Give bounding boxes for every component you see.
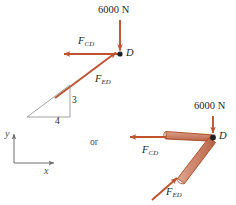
left-joint-dot-d — [117, 51, 122, 56]
right-force-label-fcd: FCD — [142, 145, 158, 156]
slope-run-label: 4 — [55, 117, 60, 127]
left-force-label-fed: FED — [95, 74, 111, 85]
axis-label-y: y — [5, 129, 9, 139]
right-force-label-fed: FED — [166, 187, 182, 198]
left-slope-triangle — [27, 85, 70, 117]
axis-indicator — [14, 134, 54, 163]
axis-label-x: x — [44, 166, 48, 176]
left-force-fed-sub: ED — [101, 78, 110, 85]
left-load-label: 6000 N — [98, 5, 129, 16]
right-member-ed — [177, 138, 215, 184]
connector-label-or: or — [90, 138, 98, 148]
left-force-label-fcd: FCD — [78, 36, 94, 47]
right-force-fed-sub: ED — [172, 191, 181, 198]
left-force-fcd-sub: CD — [84, 40, 94, 47]
right-joint-dot-d — [210, 135, 216, 141]
figure-canvas: 6000 N FCD FED D 3 4 y x or 6000 N FCD F… — [0, 0, 236, 205]
right-joint-label-d: D — [219, 131, 227, 142]
slope-rise-label: 3 — [72, 96, 77, 106]
right-load-label: 6000 N — [194, 101, 225, 112]
right-force-fcd-sub: CD — [148, 149, 158, 156]
left-joint-label-d: D — [126, 48, 134, 59]
right-member-cd — [164, 132, 212, 142]
